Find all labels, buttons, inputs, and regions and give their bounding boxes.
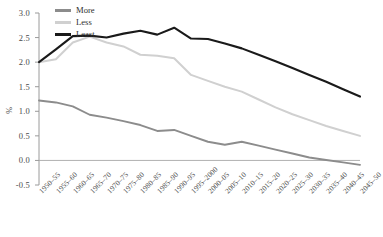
y-axis-tick-label: 3.0 [4,8,30,18]
chart-legend: More Less Least [55,5,95,41]
y-axis-tick-label: 0.0 [4,155,30,165]
y-axis-tick-label: 1.5 [4,82,30,92]
legend-swatch-more [55,9,71,12]
series-line-less [39,37,360,136]
legend-label-least: Least [76,29,95,40]
y-axis-tick-label: -0.5 [4,180,30,190]
legend-label-less: Less [76,17,92,28]
y-axis-tick-label: 1.0 [4,106,30,116]
legend-label-more: More [76,5,95,16]
series-line-more [39,100,360,164]
legend-swatch-least [55,33,71,36]
y-axis-tick-label: 2.0 [4,57,30,67]
legend-item-less: Less [55,17,95,28]
y-axis-tick-label: 2.5 [4,33,30,43]
legend-item-more: More [55,5,95,16]
legend-swatch-less [55,21,71,24]
y-axis-tick-label: 0.5 [4,131,30,141]
legend-item-least: Least [55,29,95,40]
